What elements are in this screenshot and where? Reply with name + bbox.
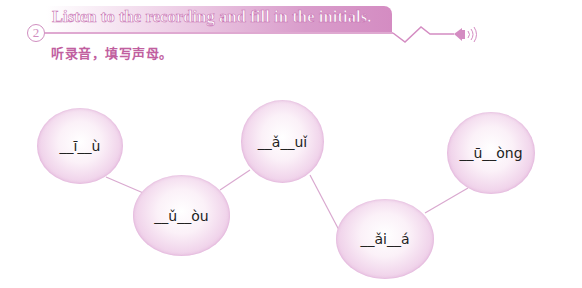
syllable-bubble-3: __ǎ__uǐ	[241, 100, 324, 183]
syllable-bubble-4: __ǎi__á	[336, 199, 434, 279]
exercise-title: Listen to the recording and fill in the …	[52, 7, 372, 27]
syllable-bubble-5: __ū__òng	[447, 112, 535, 194]
syllable-bubble-2: __ǔ__òu	[133, 175, 230, 256]
syllable-text: __ǔ__òu	[154, 208, 208, 224]
exercise-number: 2	[27, 24, 45, 42]
exercise-subtitle: 听录音，填写声母。	[51, 43, 173, 62]
syllable-bubble-1: __ī__ù	[37, 108, 123, 184]
syllable-text: __ī__ù	[60, 138, 101, 154]
syllable-text: __ū__òng	[459, 145, 522, 161]
syllable-text: __ǎ__uǐ	[258, 134, 307, 150]
syllable-text: __ǎi__á	[360, 231, 409, 247]
speaker-icon[interactable]	[452, 26, 482, 44]
